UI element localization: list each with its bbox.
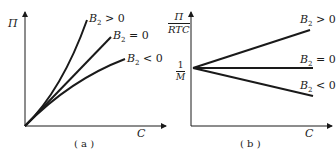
- panel-b-x-label: C: [305, 128, 313, 139]
- line-b2-positive: [193, 30, 310, 68]
- panel-b-y-label: Π RTC: [168, 12, 190, 35]
- curve-b2-negative: [25, 59, 125, 126]
- panel-b-caption: ( b ): [240, 139, 261, 149]
- panel-a-label-b2-zero: B2 = 0: [113, 30, 149, 44]
- panel-a-y-label: Π: [8, 18, 18, 29]
- panel-a-label-b2-positive: B2 > 0: [89, 13, 125, 27]
- panel-b-label-b2-positive: B2 > 0: [300, 14, 336, 28]
- panel-b-lines: [193, 30, 313, 96]
- panel-a-caption: ( a ): [74, 139, 94, 149]
- curve-b2-positive: [25, 20, 87, 126]
- panel-b-intercept-label: 1 M: [176, 61, 185, 82]
- line-b2-negative: [193, 68, 313, 96]
- panel-b-label-b2-negative: B2 < 0: [300, 80, 336, 94]
- panel-b-label-b2-zero: B2 = 0: [300, 54, 336, 68]
- panel-a-curves: [25, 20, 125, 126]
- panel-a-x-label: C: [137, 128, 145, 139]
- panel-a-label-b2-negative: B2 < 0: [127, 53, 163, 67]
